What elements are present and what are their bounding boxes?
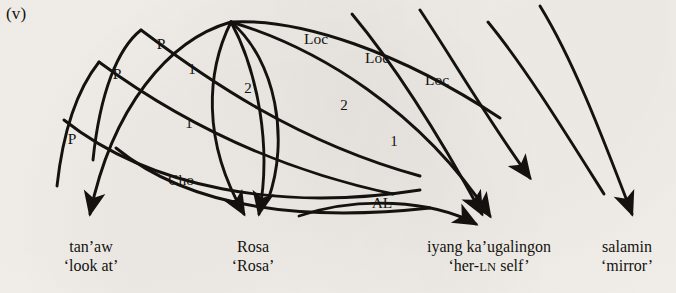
word-group-iyang-kaugalingon: iyang ka’ugalingon ‘her-LN self’: [427, 238, 551, 276]
word-form-salamin: salamin: [601, 238, 653, 257]
arc-p-2: [93, 30, 141, 160]
arc-p-3: [57, 62, 99, 186]
dependency-diagram-figure: (v): [0, 0, 676, 293]
arc-label-cho: Cho: [168, 172, 194, 188]
arc-label-num-3: 1: [185, 116, 193, 131]
arc-loc-2: [352, 14, 482, 214]
arc-loc-4: [488, 22, 604, 194]
word-group-rosa: Rosa ‘Rosa’: [232, 238, 275, 276]
arc-salamin: [540, 6, 632, 214]
arc-label-num-1: 1: [188, 62, 196, 77]
gloss-suffix: self’: [496, 257, 529, 274]
arc-label-loc-3: Loc: [425, 72, 449, 88]
arc-label-num-2: 2: [244, 81, 252, 96]
arc-label-al: AL: [372, 195, 393, 211]
arc-loc-3: [420, 10, 530, 178]
arc-cho: [231, 22, 278, 200]
word-form-tanaw: tan’aw: [64, 238, 119, 257]
word-group-salamin: salamin ‘mirror’: [601, 238, 653, 276]
arc-label-loc-1: Loc: [304, 31, 328, 47]
word-gloss-tanaw: ‘look at’: [64, 257, 119, 276]
gloss-smallcaps-ln: LN: [479, 260, 496, 274]
arc-label-p-3: P: [68, 131, 77, 147]
word-gloss-iyang-kaugalingon: ‘her-LN self’: [427, 257, 551, 276]
arc-label-p-2: P: [113, 66, 122, 82]
word-gloss-rosa: ‘Rosa’: [232, 257, 275, 276]
word-form-rosa: Rosa: [232, 238, 275, 257]
arc-label-num-5: 1: [390, 134, 398, 149]
arc-label-loc-2: Loc: [365, 50, 389, 66]
gloss-prefix: ‘her-: [448, 257, 479, 274]
word-group-tanaw: tan’aw ‘look at’: [64, 238, 119, 276]
word-gloss-salamin: ‘mirror’: [601, 257, 653, 276]
arc-label-p-1: P: [157, 36, 166, 52]
word-form-iyang-kaugalingon: iyang ka’ugalingon: [427, 238, 551, 257]
arc-label-num-4: 2: [340, 98, 348, 113]
arc-num-1: [212, 22, 244, 214]
arc-num-2: [231, 22, 264, 214]
